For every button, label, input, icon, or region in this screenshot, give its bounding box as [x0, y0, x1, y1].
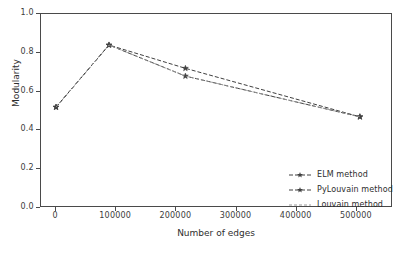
y-tick-mark: [36, 129, 40, 130]
legend-item[interactable]: ELM method: [288, 167, 393, 182]
legend-line-swatch: [288, 200, 312, 210]
data-point-marker: [182, 65, 188, 71]
x-axis-title: Number of edges: [40, 228, 392, 238]
data-point-marker: [182, 73, 188, 79]
legend-label: Louvain method: [317, 200, 383, 209]
x-tick-mark: [55, 207, 56, 211]
y-axis-title: Modularity: [11, 43, 21, 123]
y-tick-mark: [36, 52, 40, 53]
x-tick-label: 100000: [85, 211, 145, 220]
chart-legend: ELM methodPyLouvain methodLouvain method: [288, 167, 393, 212]
series-line: [56, 45, 360, 117]
x-tick-label: 500000: [326, 211, 386, 220]
legend-line-swatch: [288, 170, 312, 180]
x-tick-mark: [175, 207, 176, 211]
series-2: [53, 42, 363, 119]
legend-item[interactable]: Louvain method: [288, 197, 393, 212]
legend-item[interactable]: PyLouvain method: [288, 182, 393, 197]
series-3: [56, 45, 360, 117]
x-tick-mark: [115, 207, 116, 211]
legend-label: ELM method: [317, 170, 368, 179]
y-tick-mark: [36, 91, 40, 92]
y-tick-label: 1.0: [0, 8, 34, 17]
y-tick-label: 0.0: [0, 202, 34, 211]
y-tick-label: 0.4: [0, 124, 34, 133]
x-tick-label: 200000: [145, 211, 205, 220]
y-tick-label: 0.2: [0, 163, 34, 172]
x-tick-label: 0: [25, 211, 85, 220]
chart-figure: 0.00.20.40.60.81.0 010000020000030000040…: [0, 0, 406, 255]
y-tick-mark: [36, 168, 40, 169]
x-tick-label: 300000: [206, 211, 266, 220]
x-tick-mark: [236, 207, 237, 211]
x-tick-label: 400000: [266, 211, 326, 220]
legend-line-swatch: [288, 185, 312, 195]
series-1: [53, 42, 363, 119]
y-tick-mark: [36, 207, 40, 208]
legend-label: PyLouvain method: [317, 185, 393, 194]
y-tick-mark: [36, 13, 40, 14]
